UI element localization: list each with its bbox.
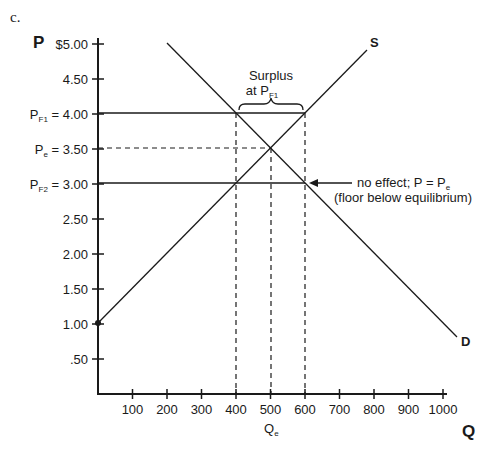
part-label: c.: [10, 9, 20, 25]
supply-demand-diagram: c. P Q $5.004.50PF1 = 4.00Pe = 3.50PF2 =…: [0, 0, 495, 457]
x-tick-label: 500: [260, 402, 282, 417]
y-axis-title: P: [33, 33, 44, 52]
y-tick-label: $5.00: [55, 37, 88, 52]
y-tick-label: PF1 = 4.00: [30, 107, 88, 124]
x-tick-label: 400: [225, 402, 247, 417]
x-axis-title: Q: [462, 422, 475, 441]
qe-label: Qe: [264, 421, 279, 438]
y-tick-label: 1.00: [63, 317, 88, 332]
y-tick-label: 1.50: [63, 282, 88, 297]
x-tick-label: 800: [363, 402, 385, 417]
y-tick-label: .50: [70, 352, 88, 367]
arrow-left-icon: [309, 179, 318, 187]
qe-sub: e: [274, 429, 279, 438]
supply-intercept-dot: [95, 320, 101, 326]
y-tick-label: 4.50: [63, 72, 88, 87]
x-tick-label: 200: [156, 402, 178, 417]
no-effect-line2: (floor below equilibrium): [334, 190, 472, 205]
x-tick-label: 300: [191, 402, 213, 417]
y-tick-label: 2.00: [63, 247, 88, 262]
supply-label: S: [370, 35, 379, 50]
x-tick-label: 900: [398, 402, 420, 417]
surplus-label-main: at P: [246, 83, 269, 98]
y-ticks: $5.004.50PF1 = 4.00Pe = 3.50PF2 = 3.002.…: [30, 37, 104, 367]
reference-lines: [98, 113, 305, 394]
x-tick-label: 100: [122, 402, 144, 417]
x-tick-label: 700: [329, 402, 351, 417]
x-tick-label: 1000: [429, 402, 458, 417]
surplus-label-sub: F1: [269, 91, 279, 100]
y-tick-label: PF2 = 3.00: [30, 177, 88, 194]
y-tick-label: Pe = 3.50: [35, 142, 88, 159]
no-effect-main: no effect; P = P: [357, 175, 446, 190]
supply-curve: [98, 50, 367, 323]
surplus-label-line2: at PF1: [246, 83, 279, 100]
surplus-label-line1: Surplus: [249, 68, 294, 83]
y-tick-label: 2.50: [63, 212, 88, 227]
qe-main: Q: [264, 421, 274, 436]
x-tick-label: 600: [294, 402, 316, 417]
demand-label: D: [461, 334, 470, 349]
